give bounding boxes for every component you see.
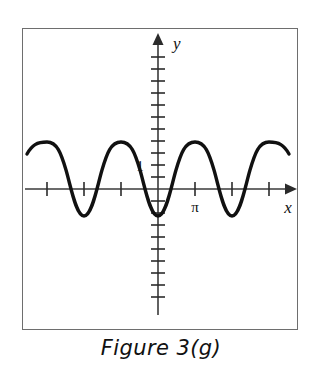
y-tick-label-one: 1: [136, 158, 144, 174]
plot-frame: 1 π y x: [22, 28, 298, 330]
x-axis-arrow-icon: [285, 184, 297, 195]
y-axis-arrow-icon: [153, 33, 164, 45]
x-axis-label: x: [283, 198, 292, 217]
figure-caption: Figure 3(g): [0, 336, 322, 360]
x-tick-label-pi: π: [191, 199, 199, 215]
figure-root: 1 π y x Figure 3(g): [0, 0, 322, 382]
plot-canvas: 1 π y x: [23, 29, 299, 331]
y-axis-ticks: [151, 57, 165, 297]
y-axis-label: y: [171, 34, 181, 53]
